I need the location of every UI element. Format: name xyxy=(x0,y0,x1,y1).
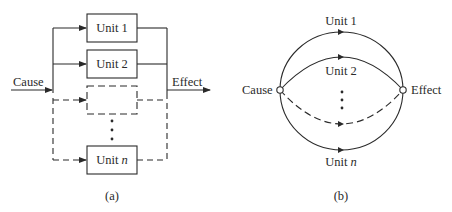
caption-b: (b) xyxy=(334,189,349,203)
caption-a: (a) xyxy=(105,189,119,203)
cause-node xyxy=(277,87,283,93)
cause-label-a: Cause xyxy=(13,75,44,89)
effect-label-a: Effect xyxy=(172,75,203,89)
block-diagram-a xyxy=(11,14,210,174)
unit-1-label-a: Unit 1 xyxy=(96,21,128,35)
path-unit-1 xyxy=(280,32,403,90)
cause-label-b: Cause xyxy=(242,83,273,97)
ellipsis-dots-b xyxy=(341,91,344,110)
effect-label-b: Effect xyxy=(411,83,442,97)
unit-dashed-box xyxy=(87,86,137,114)
unit-n-label-b: Unit n xyxy=(325,155,357,169)
unit-1-label-b: Unit 1 xyxy=(325,14,357,28)
arc-arrowheads xyxy=(338,29,344,153)
parallel-system-diagram: Cause Effect Unit 1 Unit 2 Unit n (a) Ca… xyxy=(0,0,452,212)
ellipsis-dots-a xyxy=(111,120,114,141)
unit-2-label-b: Unit 2 xyxy=(325,64,357,78)
effect-node xyxy=(400,87,406,93)
unit-n-label-a: Unit n xyxy=(96,153,128,167)
unit-2-label-a: Unit 2 xyxy=(96,57,128,71)
